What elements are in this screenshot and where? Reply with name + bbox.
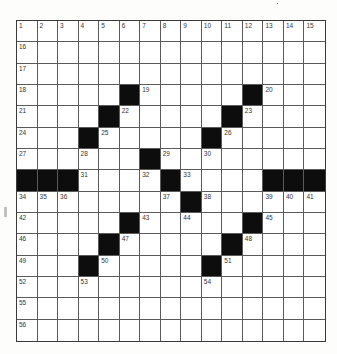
- grid-cell[interactable]: 8: [161, 21, 182, 42]
- grid-cell[interactable]: [202, 42, 223, 63]
- grid-cell[interactable]: [79, 42, 100, 63]
- grid-cell[interactable]: [284, 149, 305, 170]
- grid-cell[interactable]: 13: [263, 21, 284, 42]
- grid-cell[interactable]: 5: [99, 21, 120, 42]
- grid-cell[interactable]: 4: [79, 21, 100, 42]
- grid-cell[interactable]: 14: [284, 21, 305, 42]
- grid-cell[interactable]: [284, 128, 305, 149]
- grid-cell[interactable]: [99, 277, 120, 298]
- grid-cell[interactable]: 41: [304, 192, 325, 213]
- grid-cell[interactable]: [99, 42, 120, 63]
- grid-cell[interactable]: [304, 85, 325, 106]
- grid-cell[interactable]: [58, 85, 79, 106]
- grid-cell[interactable]: [222, 192, 243, 213]
- grid-cell[interactable]: [263, 64, 284, 85]
- grid-cell[interactable]: [284, 42, 305, 63]
- grid-cell[interactable]: [38, 106, 59, 127]
- grid-cell[interactable]: [181, 42, 202, 63]
- grid-cell[interactable]: [202, 64, 223, 85]
- grid-cell[interactable]: [140, 234, 161, 255]
- grid-cell[interactable]: [304, 149, 325, 170]
- grid-cell[interactable]: [304, 256, 325, 277]
- grid-cell[interactable]: [120, 320, 141, 341]
- grid-cell[interactable]: [284, 64, 305, 85]
- grid-cell[interactable]: 33: [181, 170, 202, 191]
- grid-cell[interactable]: 9: [181, 21, 202, 42]
- grid-cell[interactable]: 24: [17, 128, 38, 149]
- grid-cell[interactable]: [120, 42, 141, 63]
- grid-cell[interactable]: [243, 277, 264, 298]
- grid-cell[interactable]: [222, 170, 243, 191]
- grid-cell[interactable]: [263, 128, 284, 149]
- grid-cell[interactable]: [181, 85, 202, 106]
- grid-cell[interactable]: [304, 64, 325, 85]
- grid-cell[interactable]: [79, 213, 100, 234]
- grid-cell[interactable]: [181, 234, 202, 255]
- grid-cell[interactable]: [99, 170, 120, 191]
- grid-cell[interactable]: [140, 256, 161, 277]
- grid-cell[interactable]: [181, 106, 202, 127]
- grid-cell[interactable]: [140, 64, 161, 85]
- grid-cell[interactable]: 30: [202, 149, 223, 170]
- grid-cell[interactable]: [284, 213, 305, 234]
- grid-cell[interactable]: [284, 85, 305, 106]
- grid-cell[interactable]: [140, 277, 161, 298]
- grid-cell[interactable]: [284, 256, 305, 277]
- grid-cell[interactable]: [120, 128, 141, 149]
- grid-cell[interactable]: 36: [58, 192, 79, 213]
- grid-cell[interactable]: 48: [243, 234, 264, 255]
- grid-cell[interactable]: [99, 320, 120, 341]
- grid-cell[interactable]: 23: [243, 106, 264, 127]
- grid-cell[interactable]: 31: [79, 170, 100, 191]
- grid-cell[interactable]: [120, 298, 141, 319]
- grid-cell[interactable]: [161, 106, 182, 127]
- grid-cell[interactable]: [161, 42, 182, 63]
- grid-cell[interactable]: [304, 42, 325, 63]
- grid-cell[interactable]: [161, 320, 182, 341]
- grid-cell[interactable]: 28: [79, 149, 100, 170]
- grid-cell[interactable]: [222, 149, 243, 170]
- grid-cell[interactable]: 54: [202, 277, 223, 298]
- grid-cell[interactable]: 19: [140, 85, 161, 106]
- grid-cell[interactable]: [38, 320, 59, 341]
- grid-cell[interactable]: [304, 106, 325, 127]
- grid-cell[interactable]: [181, 256, 202, 277]
- grid-cell[interactable]: [38, 298, 59, 319]
- grid-cell[interactable]: [38, 149, 59, 170]
- grid-cell[interactable]: 38: [202, 192, 223, 213]
- grid-cell[interactable]: 35: [38, 192, 59, 213]
- grid-cell[interactable]: 1: [17, 21, 38, 42]
- grid-cell[interactable]: [58, 256, 79, 277]
- grid-cell[interactable]: [140, 320, 161, 341]
- grid-cell[interactable]: [243, 149, 264, 170]
- grid-cell[interactable]: [202, 106, 223, 127]
- grid-cell[interactable]: [181, 277, 202, 298]
- grid-cell[interactable]: [99, 192, 120, 213]
- grid-cell[interactable]: [161, 213, 182, 234]
- grid-cell[interactable]: [263, 256, 284, 277]
- grid-cell[interactable]: [120, 192, 141, 213]
- grid-cell[interactable]: [304, 298, 325, 319]
- grid-cell[interactable]: [243, 256, 264, 277]
- grid-cell[interactable]: [181, 64, 202, 85]
- grid-cell[interactable]: [99, 149, 120, 170]
- grid-cell[interactable]: [222, 298, 243, 319]
- grid-cell[interactable]: 27: [17, 149, 38, 170]
- grid-cell[interactable]: 47: [120, 234, 141, 255]
- grid-cell[interactable]: [140, 42, 161, 63]
- grid-cell[interactable]: [304, 213, 325, 234]
- grid-cell[interactable]: [243, 128, 264, 149]
- grid-cell[interactable]: [38, 85, 59, 106]
- grid-cell[interactable]: [202, 234, 223, 255]
- grid-cell[interactable]: [161, 234, 182, 255]
- grid-cell[interactable]: [181, 128, 202, 149]
- grid-cell[interactable]: [38, 234, 59, 255]
- grid-cell[interactable]: 20: [263, 85, 284, 106]
- grid-cell[interactable]: [243, 298, 264, 319]
- grid-cell[interactable]: 46: [17, 234, 38, 255]
- grid-cell[interactable]: [38, 256, 59, 277]
- grid-cell[interactable]: 43: [140, 213, 161, 234]
- grid-cell[interactable]: [58, 277, 79, 298]
- grid-cell[interactable]: [161, 298, 182, 319]
- grid-cell[interactable]: 51: [222, 256, 243, 277]
